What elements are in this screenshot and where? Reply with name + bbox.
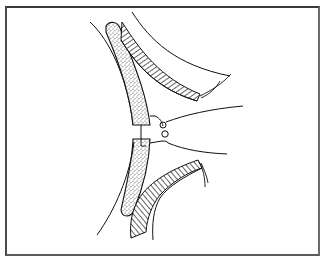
upper-tissue-strand xyxy=(200,74,231,96)
upper-tissue-strand xyxy=(201,81,220,98)
surgical-illustration xyxy=(0,0,324,261)
suture-knot xyxy=(141,106,243,154)
